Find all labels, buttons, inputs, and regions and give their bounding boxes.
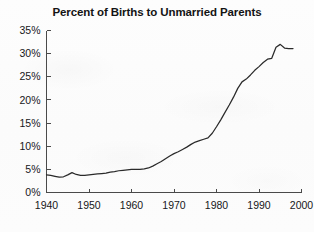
x-tick-label: 1970 [162,199,186,211]
y-axis-tick-labels: 0%5%10%15%20%25%30%35% [19,24,40,198]
x-tick-label: 1980 [205,199,229,211]
y-tick-label: 15% [19,117,40,129]
chart-plot-area: 0%5%10%15%20%25%30%35% 19401950196019701… [0,0,314,232]
x-axis-tick-labels: 1940195019601970198019902000 [35,199,314,211]
axis-tick-marks [47,31,302,193]
x-tick-label: 1940 [35,199,59,211]
axis-frame [47,31,302,193]
y-tick-label: 25% [19,70,40,82]
x-tick-label: 1950 [77,199,101,211]
y-tick-label: 0% [25,186,40,198]
x-tick-label: 1960 [120,199,144,211]
data-series-line [47,44,294,177]
y-tick-label: 5% [25,163,40,175]
x-tick-label: 2000 [290,199,314,211]
y-tick-label: 10% [19,140,40,152]
y-tick-label: 30% [19,47,40,59]
x-tick-label: 1990 [247,199,271,211]
chart-screenshot: Percent of Births to Unmarried Parents 0… [0,0,314,232]
y-tick-label: 20% [19,94,40,106]
y-tick-label: 35% [19,24,40,36]
